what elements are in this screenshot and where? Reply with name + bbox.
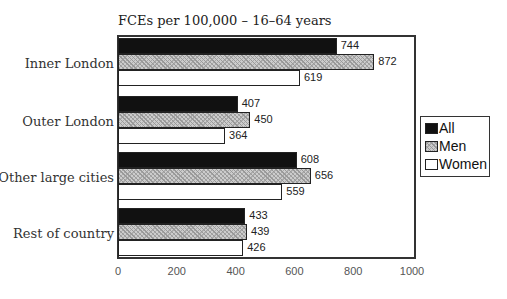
bar-men [118, 168, 311, 184]
bar-value-label: 407 [242, 97, 260, 109]
legend-label: Men [439, 138, 466, 154]
legend-swatch-men [425, 141, 438, 152]
bar-value-label: 744 [341, 39, 359, 51]
x-tick-label: 800 [344, 265, 362, 277]
bar-value-label: 656 [315, 169, 333, 181]
category-label: Rest of country [13, 226, 114, 241]
category-label: Other large cities [0, 170, 114, 185]
bar-men [118, 224, 247, 240]
bar-value-label: 619 [304, 71, 322, 83]
bar-men [118, 112, 250, 128]
x-tick-label: 1000 [400, 265, 424, 277]
bar-all [118, 152, 297, 168]
x-tick-label: 600 [285, 265, 303, 277]
bar-value-label: 439 [251, 225, 269, 237]
legend-item-all: All [425, 120, 455, 136]
bar-value-label: 364 [229, 129, 247, 141]
legend-swatch-women [425, 159, 438, 170]
bar-women [118, 70, 300, 86]
bar-all [118, 96, 238, 112]
bar-women [118, 184, 282, 200]
bar-women [118, 240, 243, 256]
x-tick-label: 400 [226, 265, 244, 277]
x-tick-label: 0 [115, 265, 121, 277]
bar-value-label: 450 [254, 113, 272, 125]
category-label: Inner London [25, 56, 114, 71]
bar-value-label: 872 [378, 55, 396, 67]
chart-title: FCEs per 100,000 – 16–64 years [118, 13, 332, 28]
bar-value-label: 433 [249, 209, 267, 221]
bar-men [118, 54, 374, 70]
legend-label: All [439, 120, 455, 136]
x-tick-label: 200 [168, 265, 186, 277]
legend-label: Women [439, 156, 487, 172]
bar-all [118, 38, 337, 54]
bar-value-label: 608 [301, 153, 319, 165]
legend-swatch-all [425, 123, 438, 134]
legend-item-men: Men [425, 138, 466, 154]
category-label: Outer London [22, 114, 114, 129]
legend: All Men Women [420, 116, 490, 177]
bar-value-label: 426 [247, 241, 265, 253]
legend-item-women: Women [425, 156, 487, 172]
bar-value-label: 559 [286, 185, 304, 197]
bar-all [118, 208, 245, 224]
bar-women [118, 128, 225, 144]
